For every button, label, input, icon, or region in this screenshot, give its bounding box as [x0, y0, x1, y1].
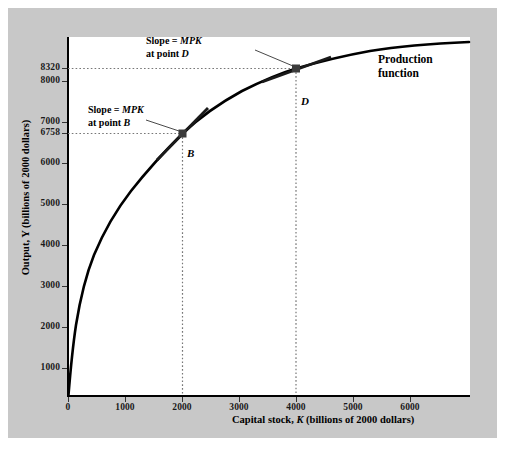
x-tick-label-2000: 2000 — [167, 402, 197, 412]
y-tick-label-2000: 2000 — [24, 321, 60, 331]
y-axis-title: Output, Y (billions of 2000 dollars) — [20, 103, 31, 293]
y-tick-label-1000: 1000 — [24, 362, 60, 372]
annotation-D-line2: at point D — [146, 48, 189, 59]
x-tick-label-4000: 4000 — [281, 402, 311, 412]
point-label-B: B — [187, 147, 194, 159]
annotation-slope-mpk-B: Slope = MPK at point B — [88, 104, 144, 129]
annotation-D-line1: Slope = MPK — [146, 35, 202, 46]
x-tick-label-0: 0 — [53, 402, 83, 412]
x-tick-label-5000: 5000 — [338, 402, 368, 412]
y-tick-mark-3000 — [62, 286, 67, 287]
x-axis-title: Capital stock, K (billions of 2000 dolla… — [232, 414, 414, 425]
y-tick-mark-8320 — [62, 68, 67, 69]
x-axis-title-pre: Capital stock, — [232, 414, 296, 425]
curve-label-production-function: Production function — [378, 52, 433, 80]
figure-container: 8320 8000 7000 6758 6000 5000 4000 3000 … — [0, 0, 505, 455]
annotation-slope-mpk-D: Slope = MPK at point D — [146, 35, 202, 60]
y-tick-mark-5000 — [62, 204, 67, 205]
x-tick-label-3000: 3000 — [224, 402, 254, 412]
curve-label-line2: function — [378, 67, 419, 79]
x-tick-label-6000: 6000 — [395, 402, 425, 412]
y-tick-label-8320: 8320 — [24, 62, 60, 72]
point-label-D: D — [301, 95, 309, 107]
curve-label-line1: Production — [378, 53, 433, 65]
y-axis-line — [67, 37, 69, 397]
plot-area — [68, 37, 470, 396]
x-tick-label-1000: 1000 — [110, 402, 140, 412]
y-tick-mark-1000 — [62, 368, 67, 369]
annotation-B-line1: Slope = MPK — [88, 104, 144, 115]
y-tick-mark-7000 — [62, 122, 67, 123]
y-tick-mark-8000 — [62, 81, 67, 82]
y-tick-mark-6000 — [62, 163, 67, 164]
x-axis-title-post: (billions of 2000 dollars) — [303, 414, 414, 425]
annotation-B-line2: at point B — [88, 117, 130, 128]
y-tick-mark-2000 — [62, 327, 67, 328]
y-tick-mark-6758 — [62, 133, 67, 134]
y-tick-mark-4000 — [62, 245, 67, 246]
y-tick-label-8000: 8000 — [24, 75, 60, 85]
